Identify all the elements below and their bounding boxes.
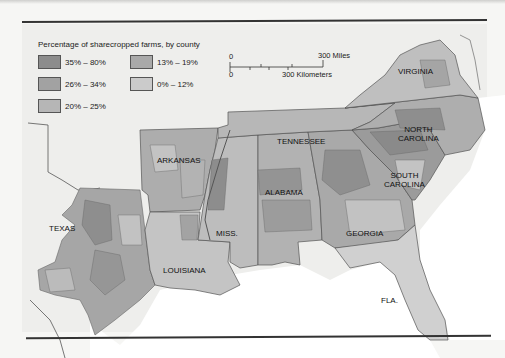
legend-item-26-34: 26% – 34% [38, 77, 106, 91]
legend-item-20-25: 20% – 25% [38, 99, 106, 113]
legend-title: Percentage of sharecropped farms, by cou… [38, 40, 200, 49]
texas-rio-grande [30, 300, 65, 358]
texas-panhandle-border [28, 123, 100, 190]
legend-swatch [130, 77, 153, 91]
legend-label: 20% – 25% [65, 102, 106, 111]
label-florida: FLA. [381, 296, 398, 305]
label-texas: TEXAS [49, 224, 75, 233]
legend-swatch [38, 99, 61, 113]
label-georgia: GEORGIA [346, 229, 383, 238]
scale-miles-label: 300 Miles [318, 51, 350, 60]
legend-swatch [130, 55, 153, 69]
scale-km-label: 300 Kilometers [282, 70, 332, 79]
scale-zero-miles: 0 [229, 52, 233, 61]
legend-item-13-19: 13% – 19% [130, 55, 198, 69]
label-louisiana: LOUISIANA [163, 266, 206, 275]
legend-item-0-12: 0% – 12% [130, 77, 193, 91]
label-south-carolina: SOUTH CAROLINA [384, 171, 425, 189]
legend-label: 35% – 80% [65, 58, 106, 67]
legend-swatch [38, 55, 61, 69]
label-arkansas: ARKANSAS [157, 156, 201, 165]
label-north-carolina: NORTH CAROLINA [398, 125, 439, 143]
legend-label: 13% – 19% [157, 58, 198, 67]
legend-item-35-80: 35% – 80% [38, 55, 106, 69]
label-mississippi: MISS. [216, 229, 238, 238]
legend-swatch [38, 77, 61, 91]
legend-label: 26% – 34% [65, 80, 106, 89]
legend-label: 0% – 12% [157, 80, 193, 89]
scale-zero-km: 0 [229, 70, 233, 79]
label-tennessee: TENNESSEE [277, 137, 325, 146]
label-virginia: VIRGINIA [398, 67, 433, 76]
label-alabama: ALABAMA [265, 188, 303, 197]
